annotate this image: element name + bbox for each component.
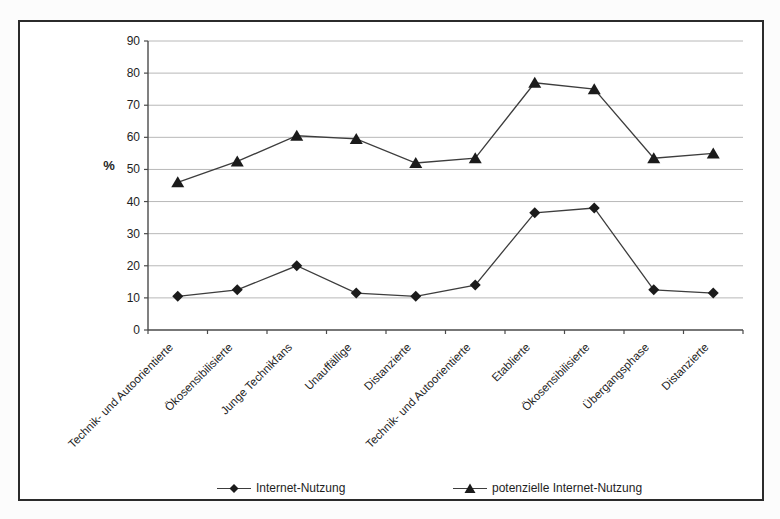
y-tick-label: 60 [127,130,141,144]
triangle-data-point-marker [469,152,482,163]
y-tick-label: 40 [127,195,141,209]
triangle-data-point-marker [231,155,244,166]
triangle-data-point-marker [528,77,541,88]
legend-label-potenzielle-internet-nutzung: potenzielle Internet-Nutzung [492,481,642,495]
y-axis-unit-label: % [94,158,124,173]
category-label: Etablierte [489,341,532,384]
triangle-data-point-marker [707,147,720,158]
y-tick-label: 0 [133,323,140,337]
line-chart: 0102030405060708090Technik- und Autoorie… [0,0,780,519]
category-label: Übergangsphase [581,341,651,411]
legend-entry-internet-nutzung: Internet-Nutzung [217,481,345,495]
y-tick-label: 80 [127,66,141,80]
legend-label-internet-nutzung: Internet-Nutzung [256,481,345,495]
diamond-data-point-marker [232,284,243,295]
series-line-0 [178,208,714,296]
diamond-data-point-marker [172,291,183,302]
y-tick-label: 20 [127,259,141,273]
triangle-marker-icon [453,482,487,495]
y-tick-label: 10 [127,291,141,305]
diamond-data-point-marker [648,284,659,295]
legend-entry-potenzielle-internet-nutzung: potenzielle Internet-Nutzung [453,481,642,495]
diamond-data-point-marker [589,202,600,213]
y-tick-label: 50 [127,162,141,176]
category-label: Unauffällige [302,341,353,392]
y-tick-label: 30 [127,227,141,241]
diamond-data-point-marker [351,288,362,299]
diamond-data-point-marker [410,291,421,302]
category-label: Technik- und Autoorientierte [66,341,175,450]
category-label: Distanzierte [659,341,710,392]
y-tick-label: 90 [127,34,141,48]
category-label: Technik- und Autoorientierte [363,341,472,450]
series-line-1 [178,83,714,183]
category-label: Distanzierte [362,341,413,392]
y-tick-label: 70 [127,98,141,112]
diamond-marker-icon [217,482,251,495]
diamond-data-point-marker [291,260,302,271]
triangle-data-point-marker [290,130,303,141]
triangle-data-point-marker [171,176,184,187]
diamond-data-point-marker [708,288,719,299]
